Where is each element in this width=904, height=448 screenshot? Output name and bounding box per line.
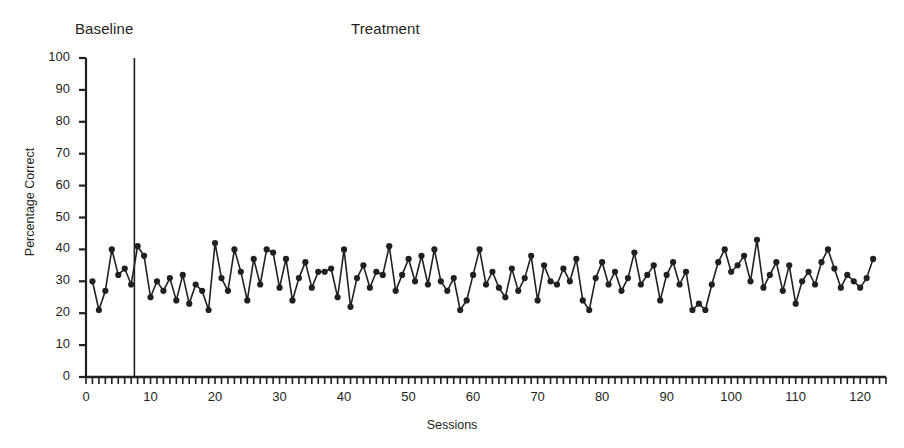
y-tick-label: 10 (36, 336, 70, 351)
x-tick-label: 90 (647, 389, 687, 404)
x-tick-label: 120 (840, 389, 880, 404)
y-tick-label: 20 (36, 304, 70, 319)
data-series-line (92, 240, 873, 310)
y-tick-label: 60 (36, 177, 70, 192)
x-tick-label: 70 (518, 389, 558, 404)
y-tick-label: 100 (36, 49, 70, 64)
y-tick-label: 80 (36, 113, 70, 128)
y-tick-label: 70 (36, 145, 70, 160)
y-tick-label: 30 (36, 272, 70, 287)
y-tick-label: 40 (36, 240, 70, 255)
x-tick-label: 110 (776, 389, 816, 404)
x-tick-label: 0 (66, 389, 106, 404)
plot-area (0, 0, 904, 448)
chart-container: Baseline Treatment Percentage Correct Se… (0, 0, 904, 448)
x-tick-label: 50 (389, 389, 429, 404)
x-tick-label: 20 (195, 389, 235, 404)
x-axis (86, 377, 886, 384)
y-axis (79, 58, 86, 377)
y-tick-label: 50 (36, 209, 70, 224)
x-tick-label: 80 (582, 389, 622, 404)
x-tick-label: 10 (131, 389, 171, 404)
x-tick-label: 30 (260, 389, 300, 404)
y-tick-label: 90 (36, 81, 70, 96)
y-tick-label: 0 (36, 368, 70, 383)
x-tick-label: 60 (453, 389, 493, 404)
x-tick-label: 100 (711, 389, 751, 404)
x-tick-label: 40 (324, 389, 364, 404)
